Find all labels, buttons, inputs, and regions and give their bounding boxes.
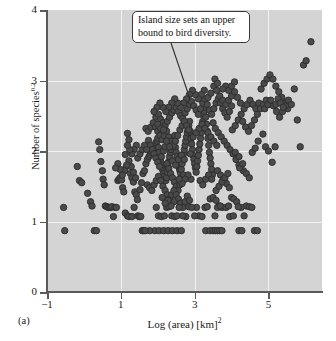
- panel-label: (a): [18, 315, 30, 326]
- y-axis-tick: [40, 292, 47, 294]
- data-point: [225, 170, 231, 176]
- x-axis-tick-label: 5: [254, 299, 282, 310]
- data-point: [208, 90, 214, 96]
- data-point: [208, 176, 214, 182]
- data-point: [212, 213, 218, 219]
- data-point: [141, 168, 147, 174]
- data-point: [174, 213, 180, 219]
- data-point: [112, 165, 118, 171]
- x-axis-line: [46, 291, 323, 293]
- data-point: [186, 127, 192, 133]
- data-point: [308, 39, 314, 45]
- data-point: [134, 196, 140, 202]
- data-point: [95, 139, 101, 145]
- data-point: [203, 114, 209, 120]
- data-point: [166, 144, 172, 150]
- data-point: [239, 227, 245, 233]
- data-point: [121, 189, 127, 195]
- data-point: [176, 204, 182, 210]
- data-point: [60, 204, 66, 210]
- data-point: [97, 146, 103, 152]
- data-point: [137, 187, 143, 193]
- data-point: [160, 127, 166, 133]
- data-point: [297, 144, 303, 150]
- data-point: [269, 159, 275, 165]
- y-axis-tick-label: 0: [13, 286, 37, 297]
- data-point: [143, 146, 149, 152]
- x-axis-label-exponent: 2: [218, 316, 222, 325]
- data-point: [220, 86, 226, 92]
- data-point: [153, 204, 159, 210]
- data-point: [99, 168, 105, 174]
- data-point: [204, 203, 210, 209]
- data-point: [239, 160, 245, 166]
- data-point: [180, 213, 186, 219]
- data-point: [89, 203, 95, 209]
- x-axis-tick-label: 1: [107, 299, 135, 310]
- data-point: [189, 204, 195, 210]
- data-point: [156, 163, 162, 169]
- data-point: [176, 176, 182, 182]
- data-point: [265, 148, 271, 154]
- data-point: [161, 213, 167, 219]
- x-axis-label-base: Log (area) [km]: [148, 318, 218, 330]
- data-point: [199, 213, 205, 219]
- data-point: [219, 227, 225, 233]
- x-axis-tick-label: 3: [181, 299, 209, 310]
- data-point: [113, 204, 119, 210]
- data-point: [249, 204, 255, 210]
- data-point: [124, 130, 130, 136]
- data-point: [138, 213, 144, 219]
- data-point: [181, 156, 187, 162]
- data-point: [241, 213, 247, 219]
- data-point: [178, 227, 184, 233]
- data-point: [246, 175, 252, 181]
- data-point: [138, 180, 144, 186]
- data-point: [236, 153, 242, 159]
- data-point: [131, 204, 137, 210]
- data-point: [280, 104, 286, 110]
- data-point: [62, 227, 68, 233]
- data-point: [79, 180, 85, 186]
- scatter-figure: 01234−1135 Number of species0.2 Log (are…: [0, 0, 336, 341]
- y-axis-label-exponent: 0.2: [29, 83, 37, 92]
- data-point: [272, 144, 278, 150]
- data-point: [214, 80, 220, 86]
- data-point: [270, 76, 276, 82]
- data-point: [255, 138, 261, 144]
- data-point: [186, 197, 192, 203]
- data-point: [159, 194, 165, 200]
- data-point: [93, 227, 99, 233]
- data-point: [151, 108, 157, 114]
- data-point: [142, 227, 148, 233]
- y-axis-label-base: Number of species: [30, 91, 41, 170]
- x-axis-tick-label: −1: [33, 299, 61, 310]
- data-point: [129, 213, 135, 219]
- data-point: [231, 79, 237, 85]
- data-point: [230, 213, 236, 219]
- y-axis-label: Number of species0.2: [29, 6, 42, 246]
- data-point: [294, 117, 300, 123]
- x-axis-label: Log (area) [km]2: [47, 316, 322, 330]
- data-point: [303, 58, 309, 64]
- data-point: [124, 142, 130, 148]
- data-point: [187, 151, 193, 157]
- data-point: [237, 100, 243, 106]
- data-point: [226, 184, 232, 190]
- data-point: [110, 213, 116, 219]
- data-point: [101, 182, 107, 188]
- data-point: [288, 101, 294, 107]
- data-point: [260, 131, 266, 137]
- annotation-leader-line: [160, 43, 202, 101]
- data-point: [84, 190, 90, 196]
- data-point: [214, 142, 220, 148]
- data-point: [225, 203, 231, 209]
- data-point: [252, 145, 258, 151]
- data-point: [98, 158, 104, 164]
- data-point: [74, 163, 80, 169]
- data-point: [254, 227, 260, 233]
- data-point: [291, 86, 297, 92]
- data-point: [235, 203, 241, 209]
- data-point: [191, 213, 197, 219]
- annotation-callout: Island size sets an upper bound to bird …: [132, 11, 250, 43]
